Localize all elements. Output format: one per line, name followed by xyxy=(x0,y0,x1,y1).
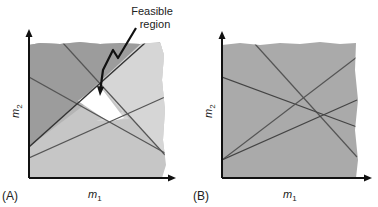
x-axis-arrow-icon xyxy=(364,175,372,182)
panel-a-label: (A) xyxy=(2,189,18,203)
panel-b: m1 m2 (B) xyxy=(193,31,372,203)
annotation-line-1: Feasible xyxy=(131,5,173,17)
panel-a-regions xyxy=(29,40,170,180)
annotation-line-2: region xyxy=(140,18,171,30)
x-axis-label: m1 xyxy=(88,188,102,203)
x-axis-arrow-icon xyxy=(168,175,176,182)
y-axis-label: m2 xyxy=(9,104,24,118)
y-axis-arrow-icon xyxy=(219,31,226,39)
y-axis-label: m2 xyxy=(202,104,217,118)
x-axis-label: m1 xyxy=(283,188,297,203)
figure: Feasible region m1 m2 (A) m1 m2 (B) xyxy=(0,0,378,207)
y-axis-arrow-icon xyxy=(26,29,33,37)
panel-b-label: (B) xyxy=(193,189,209,203)
panel-a: Feasible region m1 m2 (A) xyxy=(2,5,176,203)
panel-b-regions xyxy=(222,40,362,180)
infeasible-region xyxy=(222,40,362,180)
